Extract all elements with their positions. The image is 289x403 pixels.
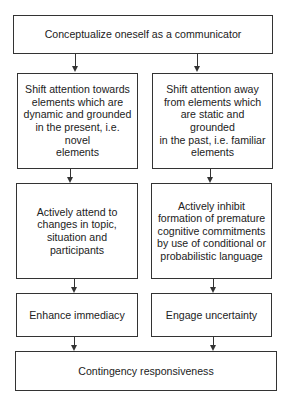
box-contingency-responsiveness: Contingency responsiveness bbox=[15, 351, 277, 391]
box-engage-uncertainty: Engage uncertainty bbox=[151, 293, 272, 337]
box-shift-attention-away-familiar: Shift attention away from elements which… bbox=[152, 73, 273, 169]
arrow-line bbox=[70, 169, 71, 177]
arrow-line bbox=[74, 337, 75, 345]
box-conceptualize-communicator: Conceptualize oneself as a communicator bbox=[13, 15, 273, 54]
box-enhance-immediacy: Enhance immediacy bbox=[16, 293, 138, 337]
box-attend-to-changes: Actively attend to changes in topic, sit… bbox=[16, 183, 138, 279]
box-label: Contingency responsiveness bbox=[78, 365, 213, 378]
box-label: Actively attend to changes in topic, sit… bbox=[37, 206, 118, 256]
box-label: Enhance immediacy bbox=[29, 309, 124, 322]
box-label: Shift attention away from elements which… bbox=[157, 83, 268, 159]
box-label: Shift attention towards elements which a… bbox=[22, 83, 133, 159]
box-inhibit-premature-commitments: Actively inhibit formation of premature … bbox=[151, 183, 272, 279]
arrow-line bbox=[213, 337, 214, 345]
arrow-line bbox=[74, 279, 75, 287]
arrow-line bbox=[210, 169, 211, 177]
box-shift-attention-towards-novel: Shift attention towards elements which a… bbox=[17, 73, 138, 169]
arrow-head-icon bbox=[72, 66, 78, 72]
box-label: Conceptualize oneself as a communicator bbox=[45, 28, 242, 41]
arrow-head-icon bbox=[194, 66, 200, 72]
box-label: Actively inhibit formation of premature … bbox=[157, 200, 266, 263]
box-label: Engage uncertainty bbox=[166, 309, 257, 322]
arrow-line bbox=[213, 279, 214, 287]
